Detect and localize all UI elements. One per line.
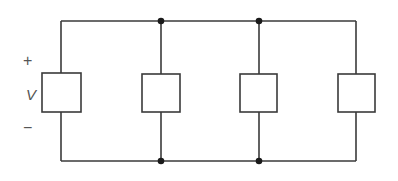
minus-polarity-label: − [23,119,32,136]
load-1-element-box [142,74,180,112]
junction-node-top-2 [256,18,263,25]
branch-load-3 [338,21,375,161]
voltage-label: V [26,86,38,103]
junction-node-bottom-2 [256,158,263,165]
branch-load-2 [240,21,277,161]
junction-node-top-1 [158,18,165,25]
branch-source [42,21,81,161]
parallel-circuit-diagram: + V − [0,0,398,181]
load-3-element-box [338,74,375,112]
load-2-element-box [240,74,277,112]
source-element-box [42,73,81,112]
junction-node-bottom-1 [158,158,165,165]
branch-load-1 [142,21,180,161]
plus-polarity-label: + [23,52,32,69]
